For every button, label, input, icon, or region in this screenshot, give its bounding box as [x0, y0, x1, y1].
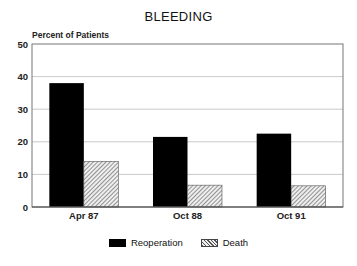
y-axis-label: Percent of Patients [32, 30, 109, 40]
x-tick-label: Oct 88 [173, 210, 202, 221]
y-tick-label: 0 [23, 202, 28, 213]
y-tick-label: 40 [17, 71, 28, 82]
y-tick-label: 20 [17, 136, 28, 147]
legend-item-reoperation: Reoperation [109, 237, 183, 248]
y-tick-label: 30 [17, 104, 28, 115]
bar-chart: 01020304050Percent of PatientsApr 87Oct … [0, 0, 357, 266]
legend-swatch-death [201, 239, 218, 247]
bar-death-oct-88 [188, 185, 223, 207]
x-tick-label: Oct 91 [277, 210, 307, 221]
bar-reoperation-oct-91 [257, 134, 292, 207]
bar-death-oct-91 [291, 186, 326, 207]
bar-reoperation-apr-87 [49, 83, 83, 207]
bar-reoperation-oct-88 [153, 137, 188, 207]
legend-item-death: Death [201, 237, 248, 248]
legend-swatch-reoperation [109, 239, 126, 247]
legend-label-reoperation: Reoperation [131, 237, 183, 248]
legend-label-death: Death [223, 237, 248, 248]
legend: Reoperation Death [0, 237, 357, 248]
y-tick-label: 50 [17, 39, 28, 50]
x-tick-label: Apr 87 [69, 210, 99, 221]
bar-death-apr-87 [84, 161, 119, 207]
y-tick-label: 10 [17, 169, 28, 180]
